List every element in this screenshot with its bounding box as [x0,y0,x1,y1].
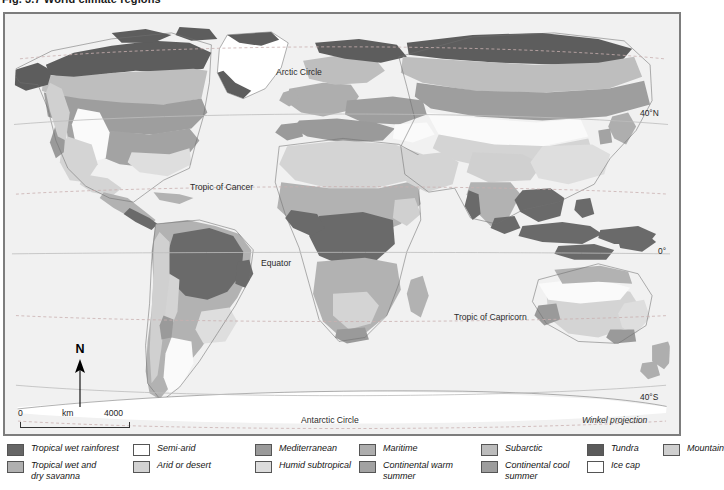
legend-column-4: MaritimeContinental warm summer [359,443,453,486]
label-tropic-of-capricorn: Tropic of Capricorn [454,313,527,322]
legend-swatch [133,461,150,473]
legend-column-2: Semi-aridArid or desert [133,443,211,477]
scale-bar-ticks [20,422,130,428]
legend-column-1: Tropical wet rainforestTropical wet and … [7,443,119,486]
legend-item[interactable]: Mediterranean [255,443,351,456]
projection-note: Winkel projection [582,416,647,425]
legend-label: Continental warm summer [383,460,453,482]
map-canvas: .c-rain{fill:#6a6a6a} .c-sav {fill:#b2b2… [4,13,680,435]
legend-label: Tropical wet rainforest [31,443,119,454]
legend-label: Continental cool summer [505,460,570,482]
legend-swatch [255,444,272,456]
scale-unit: km [62,408,73,418]
legend-item[interactable]: Tundra [587,443,640,456]
scale-bar: 0 km 4000 [18,408,138,432]
legend-label: Ice cap [611,460,640,471]
legend-item[interactable]: Continental cool summer [481,460,570,482]
legend-swatch [359,444,376,456]
label-lat-40n: 40°N [640,109,659,117]
map-legend: Tropical wet rainforestTropical wet and … [3,443,681,488]
legend-label: Humid subtropical [279,460,351,471]
legend-label: Mediterranean [279,443,337,454]
legend-item[interactable]: Maritime [359,443,453,456]
label-lat-40s: 40°S [640,393,658,401]
legend-label: Maritime [383,443,418,454]
legend-swatch [587,444,604,456]
legend-item[interactable]: Arid or desert [133,460,211,473]
legend-item[interactable]: Humid subtropical [255,460,351,473]
legend-label: Semi-arid [157,443,196,454]
legend-item[interactable]: Ice cap [587,460,640,473]
legend-item[interactable]: Tropical wet rainforest [7,443,119,456]
legend-swatch [7,444,24,456]
north-arrow-glyph [67,357,93,409]
legend-column-6: TundraIce cap [587,443,640,477]
legend-item[interactable]: Continental warm summer [359,460,453,482]
legend-swatch [255,461,272,473]
label-lat-0: 0° [658,247,666,255]
legend-label: Arid or desert [157,460,211,471]
legend-item[interactable]: Mountain [663,443,724,456]
legend-swatch [481,461,498,473]
legend-item[interactable]: Tropical wet and dry savanna [7,460,119,482]
legend-swatch [587,461,604,473]
legend-column-5: SubarcticContinental cool summer [481,443,570,486]
north-arrow-label: N [67,343,93,356]
label-tropic-of-cancer: Tropic of Cancer [190,183,253,192]
label-arctic-circle: Arctic Circle [276,68,322,77]
legend-swatch [7,461,24,473]
legend-swatch [133,444,150,456]
legend-column-7: Mountain [663,443,724,460]
legend-label: Mountain [687,443,724,454]
legend-label: Tundra [611,443,639,454]
north-arrow: N [67,343,93,409]
label-antarctic-circle: Antarctic Circle [301,416,359,425]
scale-max: 4000 [104,408,123,418]
legend-swatch [663,444,680,456]
world-climate-map: .c-rain{fill:#6a6a6a} .c-sav {fill:#b2b2… [3,12,681,436]
legend-item[interactable]: Semi-arid [133,443,211,456]
legend-label: Subarctic [505,443,543,454]
legend-swatch [481,444,498,456]
label-equator: Equator [261,259,291,268]
legend-item[interactable]: Subarctic [481,443,570,456]
scale-min: 0 [18,408,23,418]
legend-column-3: MediterraneanHumid subtropical [255,443,351,477]
legend-label: Tropical wet and dry savanna [31,460,96,482]
figure-title: Fig. 3.7 World climate regions [2,0,161,5]
legend-swatch [359,461,376,473]
